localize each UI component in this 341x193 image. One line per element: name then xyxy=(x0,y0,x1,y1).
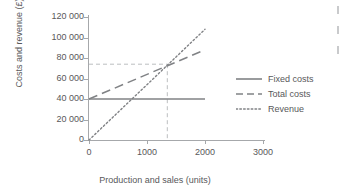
breakeven-chart: Costs and revenue (£) Production and sal… xyxy=(0,0,341,193)
legend-label: Fixed costs xyxy=(268,74,314,84)
legend: Fixed costs Total costs Revenue xyxy=(236,72,314,117)
legend-label: Total costs xyxy=(268,89,311,99)
solid-line-icon xyxy=(236,74,262,84)
legend-item-fixed-costs: Fixed costs xyxy=(236,72,314,85)
dotted-line-icon xyxy=(236,104,262,114)
page-edge-artifact xyxy=(337,46,339,54)
page-edge-artifact xyxy=(337,6,339,14)
dashed-line-icon xyxy=(236,89,262,99)
legend-label: Revenue xyxy=(268,104,304,114)
revenue-series-line xyxy=(89,29,205,140)
legend-item-total-costs: Total costs xyxy=(236,87,314,100)
page-edge-artifact xyxy=(337,26,339,34)
legend-item-revenue: Revenue xyxy=(236,102,314,115)
total-costs-series-line xyxy=(89,50,205,99)
